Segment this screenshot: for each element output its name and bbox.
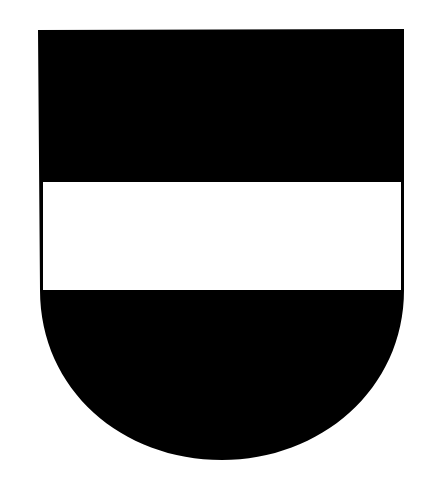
coat-of-arms-shield bbox=[0, 0, 430, 495]
image-canvas bbox=[0, 0, 430, 495]
shield-fess-band bbox=[43, 182, 401, 290]
